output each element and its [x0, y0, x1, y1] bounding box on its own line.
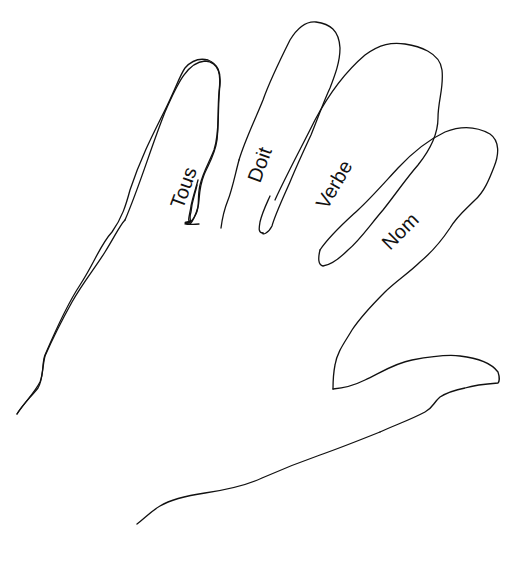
hand-diagram: Tous Doit Verbe Nom: [0, 0, 514, 572]
finger-label-ring: Verbe: [311, 156, 356, 212]
thumb-outline: [333, 355, 499, 432]
hand-left-edge: [17, 220, 125, 414]
hand-left-edge-and-index-finger: [17, 59, 220, 414]
hand-bottom-edge: [137, 432, 380, 524]
ring-finger-outline: [275, 43, 442, 266]
finger-label-pinky: Nom: [377, 208, 422, 253]
finger-label-middle: Doit: [243, 144, 276, 185]
